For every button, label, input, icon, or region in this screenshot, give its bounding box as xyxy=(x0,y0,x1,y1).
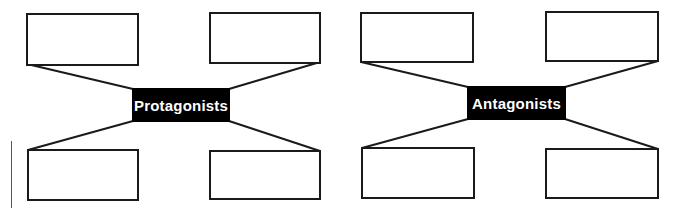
antagonists-label: Antagonists xyxy=(467,86,566,120)
margin-rule xyxy=(11,141,12,208)
connector-protagonists-top-right xyxy=(229,62,320,89)
protagonists-box-bottom-left[interactable] xyxy=(27,149,139,201)
connector-antagonists-bottom-left xyxy=(362,119,468,148)
protagonists-label: Protagonists xyxy=(132,88,230,122)
connector-protagonists-top-left xyxy=(27,64,133,89)
protagonists-box-top-left[interactable] xyxy=(26,13,139,66)
antagonists-box-top-right[interactable] xyxy=(545,11,659,62)
protagonists-box-bottom-right[interactable] xyxy=(209,150,321,200)
connector-antagonists-top-left xyxy=(361,62,468,87)
protagonists-box-top-right[interactable] xyxy=(209,12,321,64)
antagonists-box-top-left[interactable] xyxy=(360,12,474,63)
connector-antagonists-bottom-right xyxy=(565,119,658,149)
connector-antagonists-top-right xyxy=(565,61,658,87)
connector-protagonists-bottom-left xyxy=(28,121,133,150)
connector-protagonists-bottom-right xyxy=(229,121,320,151)
antagonists-box-bottom-left[interactable] xyxy=(361,147,475,199)
antagonists-box-bottom-right[interactable] xyxy=(545,148,659,199)
